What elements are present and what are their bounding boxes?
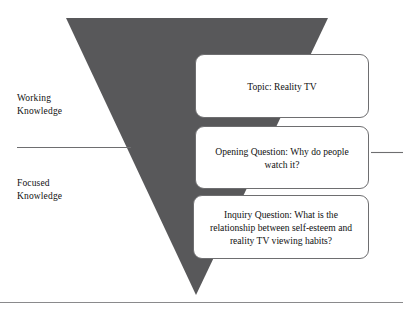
callout-topic: Topic: Reality TV	[195, 54, 369, 118]
stage-label-focused-knowledge: Focused Knowledge	[17, 177, 62, 202]
callout-inquiry-question-text: Inquiry Question: What is the relationsh…	[203, 208, 359, 247]
research-funnel-figure: Working Knowledge Focused Knowledge Topi…	[0, 0, 403, 315]
callout-inquiry-question: Inquiry Question: What is the relationsh…	[193, 195, 369, 259]
callout-opening-question: Opening Question: Why do people watch it…	[195, 126, 369, 189]
callout-topic-text: Topic: Reality TV	[205, 80, 359, 93]
stage-label-working-knowledge: Working Knowledge	[17, 92, 62, 117]
callout-opening-question-text: Opening Question: Why do people watch it…	[205, 145, 359, 171]
